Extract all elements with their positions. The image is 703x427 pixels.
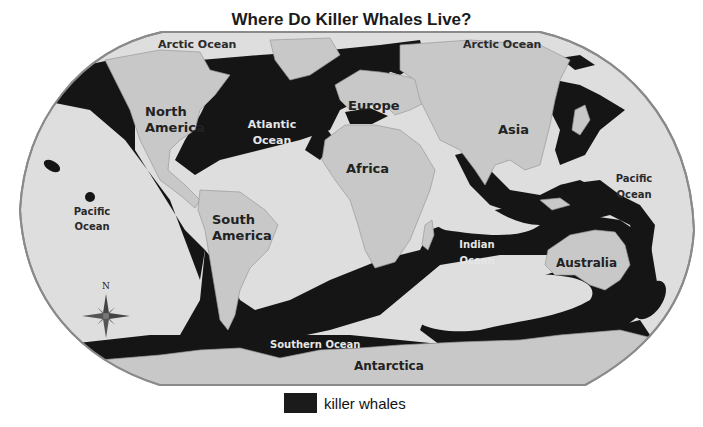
label-arctic-ocean-right: Arctic Ocean xyxy=(463,38,541,51)
label-africa: Africa xyxy=(346,161,389,176)
legend-label: killer whales xyxy=(324,395,406,412)
label-south-america-2: America xyxy=(212,228,272,243)
label-southern-ocean: Southern Ocean xyxy=(270,339,360,350)
label-indian-2: Ocean xyxy=(459,255,494,266)
world-map: Arctic Ocean Arctic Ocean North America … xyxy=(0,0,703,427)
label-asia: Asia xyxy=(498,122,529,137)
label-australia: Australia xyxy=(556,256,617,270)
label-north-america-2: America xyxy=(145,120,205,135)
label-europe: Europe xyxy=(348,98,400,113)
legend: killer whales xyxy=(284,393,406,413)
label-atlantic-2: Ocean xyxy=(253,134,292,147)
label-indian-1: Indian xyxy=(459,239,494,250)
legend-swatch-killer-whales xyxy=(284,393,317,413)
label-antarctica: Antarctica xyxy=(354,359,424,373)
label-pacific-left-2: Ocean xyxy=(74,221,109,232)
label-pacific-right-2: Ocean xyxy=(616,189,651,200)
compass-north-label: N xyxy=(102,281,110,291)
label-pacific-right-1: Pacific xyxy=(616,173,653,184)
label-pacific-left-1: Pacific xyxy=(74,206,111,217)
label-atlantic-1: Atlantic xyxy=(248,118,296,131)
label-north-america-1: North xyxy=(145,104,187,119)
label-south-america-1: South xyxy=(212,212,255,227)
label-arctic-ocean-left: Arctic Ocean xyxy=(158,38,236,51)
